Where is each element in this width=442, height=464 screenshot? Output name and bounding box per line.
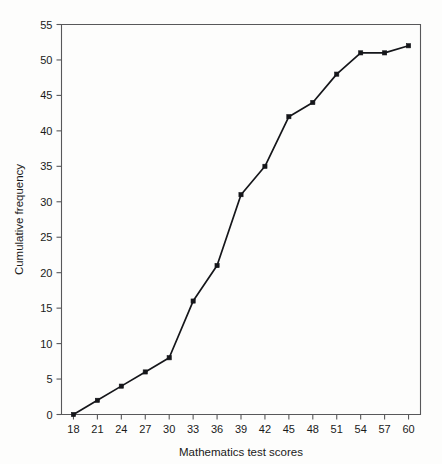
plot-frame [62, 25, 421, 415]
y-tick-label: 20 [40, 267, 52, 279]
data-point [95, 398, 99, 402]
data-point [311, 100, 315, 104]
x-tick-label: 57 [378, 423, 390, 435]
data-point [263, 164, 267, 168]
data-point [287, 115, 291, 119]
x-tick-label: 48 [307, 423, 319, 435]
x-axis-tick-labels: 182124273033363942454851545760 [67, 423, 414, 435]
x-tick-label: 39 [235, 423, 247, 435]
x-tick-label: 54 [355, 423, 367, 435]
y-tick-label: 50 [40, 54, 52, 66]
x-tick-label: 21 [91, 423, 103, 435]
data-point [239, 193, 243, 197]
x-axis-title: Mathematics test scores [179, 446, 303, 458]
y-tick-label: 45 [40, 89, 52, 101]
cumulative-frequency-chart: 0510152025303540455055 18212427303336394… [0, 0, 442, 464]
chart-canvas: 0510152025303540455055 18212427303336394… [0, 0, 442, 464]
y-axis-tick-labels: 0510152025303540455055 [40, 19, 52, 421]
data-point [119, 384, 123, 388]
data-point [335, 72, 339, 76]
y-tick-label: 0 [46, 409, 52, 421]
x-axis-tick-marks [73, 415, 408, 420]
x-tick-label: 30 [163, 423, 175, 435]
y-tick-label: 55 [40, 19, 52, 31]
y-axis-title: Cumulative frequency [13, 164, 25, 275]
y-tick-label: 15 [40, 302, 52, 314]
data-point [71, 412, 75, 416]
y-tick-label: 40 [40, 125, 52, 137]
chart-screenshot: 0510152025303540455055 18212427303336394… [0, 0, 442, 464]
x-tick-label: 36 [211, 423, 223, 435]
cumulative-frequency-line [73, 46, 408, 415]
data-point [191, 299, 195, 303]
data-point [215, 263, 219, 267]
x-tick-label: 24 [115, 423, 127, 435]
y-tick-label: 10 [40, 338, 52, 350]
data-point [406, 44, 410, 48]
y-tick-label: 5 [46, 373, 52, 385]
x-tick-label: 42 [259, 423, 271, 435]
y-tick-label: 25 [40, 231, 52, 243]
data-point [143, 370, 147, 374]
x-tick-label: 51 [331, 423, 343, 435]
y-axis-tick-marks [57, 25, 62, 415]
y-tick-label: 35 [40, 160, 52, 172]
x-tick-label: 45 [283, 423, 295, 435]
data-point [359, 51, 363, 55]
x-tick-label: 33 [187, 423, 199, 435]
data-point [383, 51, 387, 55]
y-tick-label: 30 [40, 196, 52, 208]
x-tick-label: 27 [139, 423, 151, 435]
x-tick-label: 60 [402, 423, 414, 435]
data-point [167, 356, 171, 360]
x-tick-label: 18 [67, 423, 79, 435]
data-point-markers [71, 44, 410, 417]
